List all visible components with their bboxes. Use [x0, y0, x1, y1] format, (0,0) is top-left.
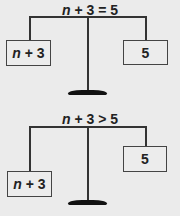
variable: n — [62, 111, 71, 127]
left-hanger — [29, 126, 31, 171]
left-pan-box: n + 3 — [7, 171, 52, 197]
expression-rest: + 3 — [22, 176, 46, 192]
right-hanger — [145, 126, 147, 146]
value: 5 — [141, 151, 149, 167]
left-hanger — [29, 16, 31, 40]
inequality-label: n + 3 > 5 — [0, 111, 180, 127]
left-pan-box: n + 3 — [6, 40, 51, 66]
expression-rest: + 3 — [21, 45, 45, 61]
scale-base — [68, 200, 107, 205]
right-pan-box: 5 — [123, 40, 168, 65]
variable: n — [12, 45, 21, 61]
scale-pole — [87, 126, 89, 202]
inequality-rest: + 3 > 5 — [71, 111, 118, 127]
scale-pole — [87, 16, 89, 92]
right-pan-box: 5 — [123, 146, 167, 172]
right-hanger — [145, 16, 147, 40]
scale-base — [68, 90, 107, 95]
value: 5 — [142, 45, 150, 61]
variable: n — [13, 176, 22, 192]
